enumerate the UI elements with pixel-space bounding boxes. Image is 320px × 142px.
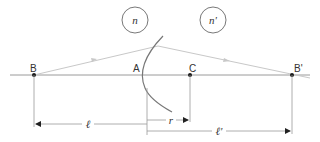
point-A-label: A xyxy=(133,63,140,74)
dimension-r-label: r xyxy=(169,114,174,126)
refracted-ray xyxy=(158,46,310,78)
medium-n-label: n xyxy=(132,14,138,26)
medium-n-prime-label: n' xyxy=(209,14,218,26)
point-B-label: B xyxy=(30,63,37,74)
point-B-prime-label: B' xyxy=(294,63,303,74)
dimension-l-prime-label: ℓ' xyxy=(216,125,224,137)
point-C-label: C xyxy=(189,63,196,74)
refraction-diagram: n n' B A C B' ℓ r ℓ' xyxy=(0,0,320,142)
dimension-l-label: ℓ xyxy=(86,118,91,130)
